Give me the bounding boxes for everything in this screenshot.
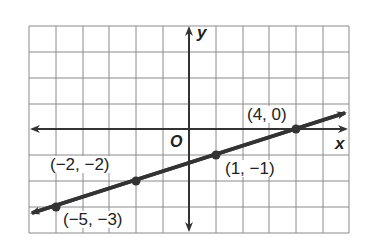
point-label-4-0: (4, 0) — [246, 106, 288, 123]
coordinate-graph — [0, 0, 366, 245]
origin-label: O — [170, 134, 182, 150]
point-label-neg2-neg2: (−2, −2) — [49, 156, 111, 173]
point-label-neg5-neg3: (−5, −3) — [62, 211, 124, 228]
x-axis-label: x — [335, 135, 344, 152]
y-axis-label: y — [197, 24, 206, 41]
point-label-1-neg1: (1, −1) — [224, 160, 276, 177]
